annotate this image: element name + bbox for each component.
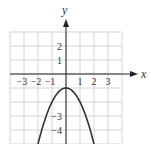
y-axis-arrow-icon [63, 19, 69, 27]
y-tick-label: −3 [51, 111, 62, 122]
y-tick-label: −4 [51, 125, 62, 136]
y-tick-label: 2 [57, 41, 62, 52]
y-axis-label: y [61, 3, 68, 17]
parabola-chart: x y −3−2−112321−3−4 [0, 0, 151, 144]
x-tick-label: −2 [31, 76, 42, 87]
x-tick-label: 1 [78, 76, 83, 87]
x-axis-arrow-icon [130, 71, 138, 77]
x-axis-label: x [140, 67, 147, 81]
y-tick-label: 1 [57, 55, 62, 66]
x-tick-label: −3 [17, 76, 28, 87]
x-tick-label: 2 [92, 76, 97, 87]
x-tick-label: −1 [45, 76, 56, 87]
x-tick-label: 3 [106, 76, 111, 87]
